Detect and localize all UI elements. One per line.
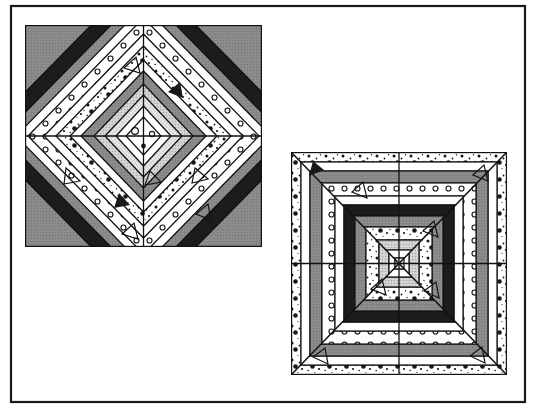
quilt-figure (0, 0, 535, 412)
quilt-figure-canvas (0, 0, 535, 412)
right-quilt-block (291, 152, 507, 375)
